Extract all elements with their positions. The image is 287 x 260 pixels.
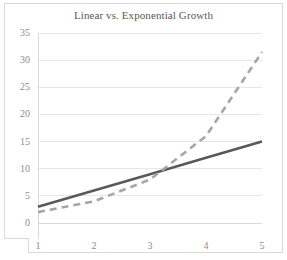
series-line-linear — [38, 142, 262, 207]
y-tick-label-20: 20 — [6, 108, 30, 119]
y-tick-label-35: 35 — [6, 27, 30, 38]
data-series-group — [38, 52, 262, 212]
series-line-exponential — [38, 52, 262, 212]
chart-image-frame: Linear vs. Exponential Growth 0510152025… — [0, 0, 287, 260]
x-tick-label-5: 5 — [252, 240, 272, 251]
x-tick-label-4: 4 — [196, 240, 216, 251]
y-tick-label-0: 0 — [6, 217, 30, 228]
y-tick-label-15: 15 — [6, 136, 30, 147]
x-tick-label-3: 3 — [140, 240, 160, 251]
gridlines-group — [38, 33, 262, 223]
y-tick-label-30: 30 — [6, 54, 30, 65]
y-tick-label-5: 5 — [6, 190, 30, 201]
y-tick-label-10: 10 — [6, 163, 30, 174]
x-tick-label-1: 1 — [28, 240, 48, 251]
y-tick-label-25: 25 — [6, 81, 30, 92]
x-tick-label-2: 2 — [84, 240, 104, 251]
line-chart-plot — [0, 0, 287, 260]
